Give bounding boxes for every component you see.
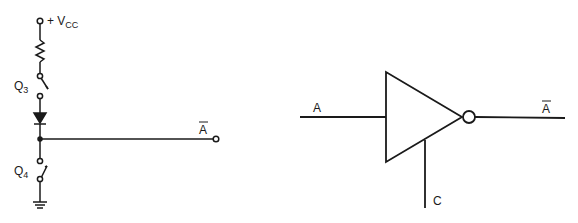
- vcc-label-main: + V: [47, 14, 65, 28]
- inverter-output-line: [475, 117, 565, 118]
- q4-switch-top-contact: [37, 158, 42, 163]
- q3-label-sub: 3: [23, 85, 28, 95]
- left-output-label: A: [199, 123, 207, 137]
- q4-label: Q4: [14, 164, 28, 180]
- q3-switch-top-contact: [37, 73, 42, 78]
- input-a-label: A: [313, 101, 321, 115]
- q3-label-main: Q: [14, 79, 23, 93]
- diode-icon: [34, 113, 46, 123]
- vcc-label-render: + VCC: [47, 14, 79, 30]
- right-output-label: A: [542, 102, 550, 116]
- ground-icon: [33, 202, 47, 208]
- q3-label: Q3: [14, 79, 28, 95]
- q3-switch-bottom-contact: [37, 93, 42, 98]
- resistor-icon: [36, 40, 44, 62]
- inversion-bubble-icon: [463, 111, 475, 123]
- output-terminal: [213, 136, 219, 142]
- q4-switch-blade: [41, 166, 47, 178]
- q4-switch-bottom-contact: [37, 176, 42, 181]
- control-c-label: C: [433, 194, 442, 208]
- q4-label-sub: 4: [23, 170, 28, 180]
- circuit-diagram: + VCC Q3 Q4 A A C A: [0, 0, 578, 223]
- q4-label-main: Q: [14, 164, 23, 178]
- vcc-label-sub: CC: [65, 20, 78, 30]
- vcc-terminal: [37, 18, 43, 24]
- buffer-triangle-icon: [386, 72, 462, 162]
- tristate-inverter: [300, 72, 565, 208]
- totem-pole-circuit: [33, 18, 219, 208]
